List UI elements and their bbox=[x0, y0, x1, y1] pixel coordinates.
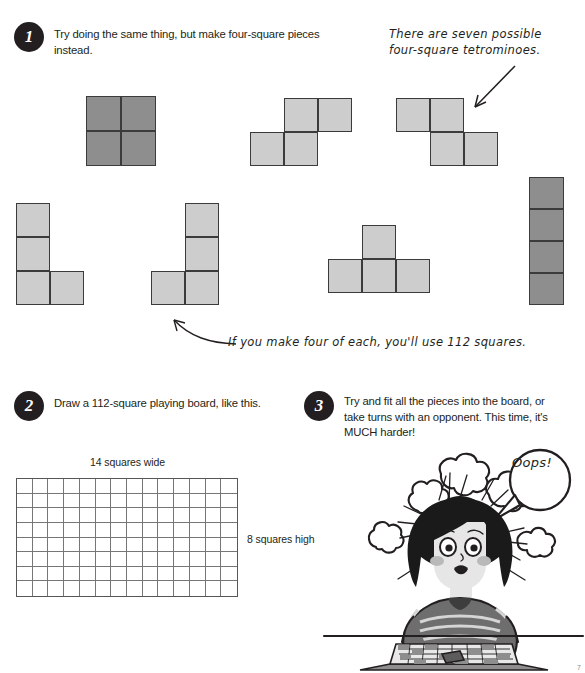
board-square bbox=[158, 523, 174, 538]
board-square bbox=[17, 567, 33, 582]
board-square bbox=[221, 567, 237, 582]
board-square bbox=[143, 494, 159, 509]
board-square bbox=[190, 479, 206, 494]
step-text-2: Draw a 112-square playing board, like th… bbox=[54, 396, 294, 412]
board-square bbox=[33, 494, 49, 509]
board-square bbox=[17, 581, 33, 596]
board-square bbox=[111, 508, 127, 523]
piece-cell bbox=[284, 98, 318, 132]
board-square bbox=[64, 479, 80, 494]
board-square bbox=[80, 538, 96, 553]
piece-cell bbox=[529, 241, 564, 273]
board-square bbox=[111, 494, 127, 509]
board-square bbox=[33, 508, 49, 523]
board-square bbox=[158, 479, 174, 494]
piece-cell bbox=[250, 132, 284, 166]
board-square bbox=[127, 523, 143, 538]
playing-board-grid bbox=[16, 478, 238, 597]
board-square bbox=[48, 494, 64, 509]
piece-cell bbox=[396, 259, 430, 293]
piece-cell bbox=[16, 203, 50, 237]
board-square bbox=[190, 567, 206, 582]
piece-cell bbox=[185, 271, 219, 305]
board-square bbox=[206, 567, 222, 582]
board-square bbox=[96, 508, 112, 523]
board-square bbox=[17, 552, 33, 567]
piece-cell bbox=[16, 271, 50, 305]
worksheet-page: 1 Try doing the same thing, but make fou… bbox=[0, 0, 585, 673]
board-square bbox=[206, 479, 222, 494]
board-square bbox=[127, 581, 143, 596]
board-square bbox=[174, 538, 190, 553]
board-square bbox=[221, 552, 237, 567]
piece-cell bbox=[16, 237, 50, 271]
board-square bbox=[221, 494, 237, 509]
board-square bbox=[96, 581, 112, 596]
board-width-label: 14 squares wide bbox=[90, 456, 165, 468]
board-square bbox=[48, 552, 64, 567]
piece-cell bbox=[121, 131, 156, 166]
board-square bbox=[174, 523, 190, 538]
piece-cell bbox=[529, 273, 564, 305]
board-square bbox=[143, 552, 159, 567]
board-square bbox=[111, 538, 127, 553]
board-square bbox=[143, 538, 159, 553]
board-square bbox=[80, 479, 96, 494]
annotation-arrow-down-left-icon bbox=[455, 62, 525, 117]
board-square bbox=[111, 479, 127, 494]
board-square bbox=[190, 552, 206, 567]
board-square bbox=[190, 538, 206, 553]
board-square bbox=[174, 479, 190, 494]
piece-cell bbox=[529, 209, 564, 241]
board-square bbox=[96, 523, 112, 538]
page-number: 7 bbox=[577, 664, 581, 671]
board-square bbox=[190, 508, 206, 523]
board-square bbox=[33, 552, 49, 567]
board-square bbox=[64, 494, 80, 509]
piece-cell bbox=[529, 177, 564, 209]
board-square bbox=[158, 581, 174, 596]
board-square bbox=[206, 508, 222, 523]
board-square bbox=[206, 581, 222, 596]
board-square bbox=[206, 538, 222, 553]
board-square bbox=[96, 538, 112, 553]
piece-cell bbox=[185, 203, 219, 237]
board-square bbox=[33, 567, 49, 582]
piece-cell bbox=[396, 98, 430, 132]
board-square bbox=[190, 523, 206, 538]
board-square bbox=[80, 552, 96, 567]
board-square bbox=[174, 552, 190, 567]
piece-cell bbox=[284, 132, 318, 166]
board-square bbox=[33, 523, 49, 538]
step-text-3: Try and fit all the pieces into the boar… bbox=[344, 394, 559, 441]
board-square bbox=[80, 523, 96, 538]
board-square bbox=[33, 479, 49, 494]
step-badge-2: 2 bbox=[14, 391, 44, 421]
board-square bbox=[221, 508, 237, 523]
board-square bbox=[143, 479, 159, 494]
board-square bbox=[127, 494, 143, 509]
board-square bbox=[127, 479, 143, 494]
board-square bbox=[80, 567, 96, 582]
piece-cell bbox=[121, 96, 156, 131]
board-square bbox=[64, 538, 80, 553]
board-square bbox=[96, 494, 112, 509]
board-square bbox=[17, 523, 33, 538]
illustration-frustrated-girl: .ln { fill:none; stroke:#231f20; stroke-… bbox=[322, 448, 585, 673]
piece-cell bbox=[318, 98, 352, 132]
board-square bbox=[174, 581, 190, 596]
board-square bbox=[190, 494, 206, 509]
board-square bbox=[80, 494, 96, 509]
piece-cell bbox=[50, 271, 84, 305]
board-square bbox=[48, 523, 64, 538]
board-square bbox=[64, 581, 80, 596]
board-square bbox=[48, 538, 64, 553]
board-square bbox=[206, 494, 222, 509]
board-square bbox=[96, 552, 112, 567]
board-square bbox=[17, 479, 33, 494]
board-square bbox=[174, 508, 190, 523]
board-height-label: 8 squares high bbox=[247, 533, 314, 545]
board-square bbox=[64, 567, 80, 582]
speech-bubble-text: Oops! bbox=[512, 455, 552, 470]
board-square bbox=[111, 581, 127, 596]
